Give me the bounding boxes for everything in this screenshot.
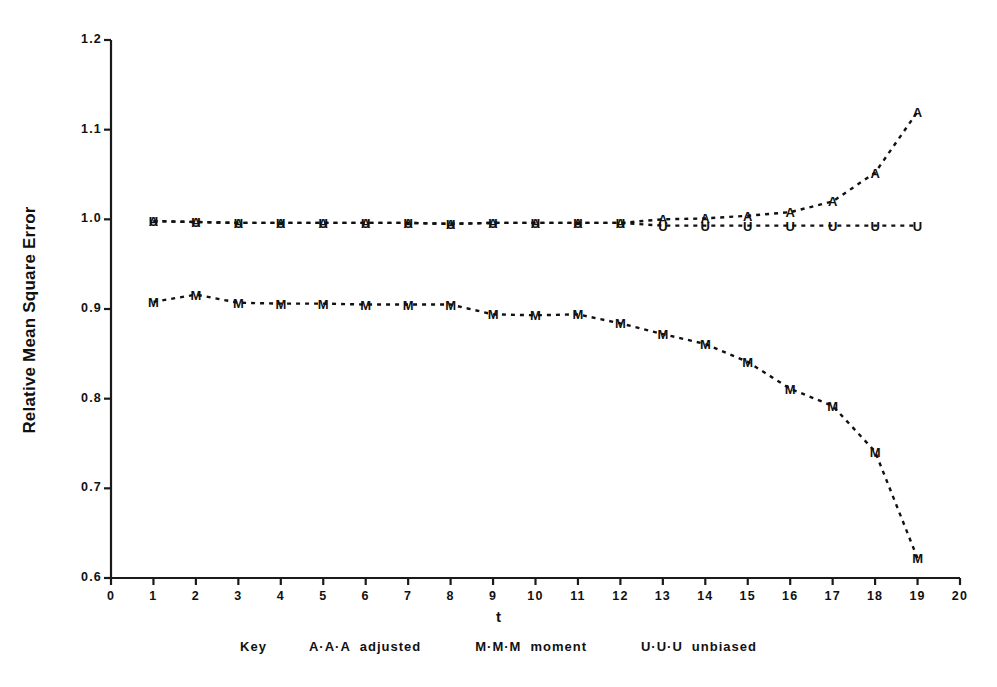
x-tick-label: 3 <box>214 589 262 603</box>
legend-label-moment: moment <box>530 639 587 654</box>
data-point-marker-unbiased: U <box>191 216 200 229</box>
x-tick-label: 16 <box>766 589 814 603</box>
data-point-marker-moment: M <box>275 297 286 310</box>
x-tick-label: 2 <box>172 589 220 603</box>
data-point-marker-moment: M <box>870 445 881 458</box>
data-point-marker-moment: M <box>488 308 499 321</box>
legend-symbol-unbiased: U·U·U <box>641 639 683 654</box>
data-point-marker-unbiased: U <box>573 216 582 229</box>
x-tick-label: 8 <box>427 589 475 603</box>
x-tick-label: 15 <box>724 589 772 603</box>
data-point-marker-moment: M <box>742 355 753 368</box>
data-point-marker-adjusted: A <box>785 206 794 219</box>
chart-figure: Relative Mean Square Error t Key A·A·Aad… <box>0 0 997 687</box>
y-tick-label: 0.6 <box>40 570 102 584</box>
data-point-marker-moment: M <box>445 298 456 311</box>
data-point-marker-moment: M <box>827 399 838 412</box>
data-point-marker-adjusted: A <box>913 105 922 118</box>
x-tick-label: 0 <box>87 589 135 603</box>
x-tick-label: 17 <box>809 589 857 603</box>
legend-item-unbiased: U·U·Uunbiased <box>641 639 757 654</box>
legend-item-moment: M·M·Mmoment <box>475 639 587 654</box>
x-axis-title: t <box>0 608 997 625</box>
x-tick-label: 20 <box>936 589 984 603</box>
legend-symbol-moment: M·M·M <box>475 639 521 654</box>
y-tick-label: 0.8 <box>40 391 102 405</box>
data-point-marker-unbiased: U <box>785 219 794 232</box>
data-point-marker-unbiased: U <box>531 216 540 229</box>
y-tick-label: 1.1 <box>40 122 102 136</box>
x-tick-label: 9 <box>469 589 517 603</box>
data-point-marker-moment: M <box>318 297 329 310</box>
chart-legend: Key A·A·Aadjusted M·M·Mmoment U·U·Uunbia… <box>0 639 997 654</box>
data-point-marker-unbiased: U <box>234 216 243 229</box>
data-point-marker-moment: M <box>233 296 244 309</box>
data-point-marker-unbiased: U <box>319 216 328 229</box>
x-tick-label: 10 <box>512 589 560 603</box>
legend-symbol-adjusted: A·A·A <box>309 639 351 654</box>
x-tick-label: 7 <box>384 589 432 603</box>
data-point-marker-moment: M <box>615 317 626 330</box>
data-point-marker-unbiased: U <box>828 219 837 232</box>
series-line-adjusted <box>153 112 917 224</box>
data-point-marker-unbiased: U <box>403 216 412 229</box>
data-point-marker-adjusted: A <box>828 195 837 208</box>
legend-key-label: Key <box>240 639 267 654</box>
data-point-marker-unbiased: U <box>616 216 625 229</box>
x-tick-label: 11 <box>554 589 602 603</box>
data-point-marker-unbiased: U <box>701 219 710 232</box>
series-line-moment <box>153 295 917 559</box>
y-tick-label: 1.2 <box>40 32 102 46</box>
x-tick-label: 19 <box>894 589 942 603</box>
x-tick-label: 4 <box>257 589 305 603</box>
x-tick-label: 12 <box>596 589 644 603</box>
data-point-marker-unbiased: U <box>870 219 879 232</box>
data-point-marker-moment: M <box>912 552 923 565</box>
data-point-marker-unbiased: U <box>446 217 455 230</box>
data-point-marker-moment: M <box>148 295 159 308</box>
data-point-marker-moment: M <box>700 337 711 350</box>
y-tick-label: 0.7 <box>40 480 102 494</box>
data-point-marker-moment: M <box>403 298 414 311</box>
data-point-marker-moment: M <box>785 382 796 395</box>
data-point-marker-moment: M <box>657 328 668 341</box>
legend-label-unbiased: unbiased <box>692 639 757 654</box>
y-tick-label: 1.0 <box>40 211 102 225</box>
data-point-marker-unbiased: U <box>361 216 370 229</box>
x-tick-label: 13 <box>639 589 687 603</box>
plot-area <box>0 0 997 687</box>
data-point-marker-unbiased: U <box>658 219 667 232</box>
data-point-marker-unbiased: U <box>149 215 158 228</box>
legend-label-adjusted: adjusted <box>360 639 421 654</box>
y-tick-label: 0.9 <box>40 301 102 315</box>
data-point-marker-adjusted: A <box>870 166 879 179</box>
data-point-marker-moment: M <box>360 298 371 311</box>
x-tick-label: 1 <box>129 589 177 603</box>
x-tick-label: 6 <box>342 589 390 603</box>
data-point-marker-unbiased: U <box>276 216 285 229</box>
data-point-marker-unbiased: U <box>913 219 922 232</box>
data-point-marker-moment: M <box>190 288 201 301</box>
data-point-marker-moment: M <box>573 308 584 321</box>
x-tick-label: 18 <box>851 589 899 603</box>
x-tick-label: 14 <box>681 589 729 603</box>
data-point-marker-unbiased: U <box>743 219 752 232</box>
data-point-marker-unbiased: U <box>488 216 497 229</box>
data-point-marker-moment: M <box>530 309 541 322</box>
x-tick-label: 5 <box>299 589 347 603</box>
legend-item-adjusted: A·A·Aadjusted <box>309 639 421 654</box>
